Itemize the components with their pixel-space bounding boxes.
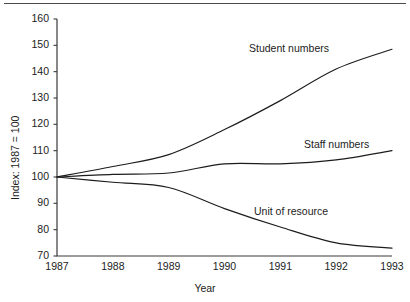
x-tick-label: 1990 bbox=[205, 261, 245, 272]
x-axis-title: Year bbox=[0, 282, 410, 294]
series-line-1 bbox=[57, 151, 392, 177]
y-tick-label: 100 bbox=[23, 171, 49, 182]
x-tick-label: 1993 bbox=[372, 261, 410, 272]
x-tick-label: 1989 bbox=[149, 261, 189, 272]
x-tick-label: 1991 bbox=[260, 261, 300, 272]
x-tick-label: 1988 bbox=[93, 261, 133, 272]
y-tick-label: 120 bbox=[23, 118, 49, 129]
series-line-2 bbox=[57, 177, 392, 248]
y-tick-label: 110 bbox=[23, 145, 49, 156]
y-tick-label: 80 bbox=[23, 224, 49, 235]
y-tick-label: 140 bbox=[23, 66, 49, 77]
x-tick-label: 1987 bbox=[37, 261, 77, 272]
series-label-2: Unit of resource bbox=[254, 205, 328, 217]
y-tick-label: 160 bbox=[23, 13, 49, 24]
line-chart: 708090100110120130140150160 198719881989… bbox=[0, 0, 410, 302]
y-axis-title: Index: 1987 = 100 bbox=[9, 116, 21, 200]
y-tick-label: 90 bbox=[23, 197, 49, 208]
y-tick-label: 150 bbox=[23, 39, 49, 50]
x-tick-label: 1992 bbox=[316, 261, 356, 272]
y-tick-label: 130 bbox=[23, 92, 49, 103]
series-line-0 bbox=[57, 49, 392, 177]
series-label-0: Student numbers bbox=[249, 42, 329, 54]
series-label-1: Staff numbers bbox=[304, 138, 369, 150]
chart-plot-area bbox=[0, 0, 410, 302]
